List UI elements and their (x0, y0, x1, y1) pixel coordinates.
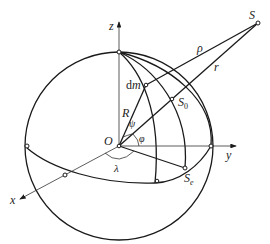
Se-point (183, 166, 187, 170)
S-point (256, 21, 260, 25)
dm-point (144, 83, 148, 87)
Se-label: Se (184, 171, 194, 187)
S0-label: S0 (178, 95, 188, 111)
S-label: S (249, 8, 255, 22)
psi-label: ψ (129, 118, 136, 129)
equator-meridian-point (155, 179, 159, 183)
dm-label: dm (126, 78, 141, 92)
left-equator-point (25, 144, 29, 148)
z-axis-label: z (108, 19, 114, 33)
phi-label: φ (139, 133, 145, 144)
x-equator-point (63, 173, 67, 177)
north-pole-point (117, 50, 121, 54)
y-axis-label: y (225, 148, 232, 162)
r-label: r (214, 60, 219, 74)
sphere-diagram: z y x O S ρ r dm R ψ φ λ S0 Se (0, 0, 270, 244)
lambda-label: λ (113, 162, 119, 174)
lambda-angle-arc (105, 151, 134, 159)
meridian-arc-3 (119, 52, 211, 146)
origin-label: O (104, 134, 113, 148)
line-O-to-Se (119, 146, 185, 168)
S0-point (170, 97, 174, 101)
origin-point (117, 144, 121, 148)
rho-label: ρ (196, 41, 203, 55)
x-axis-label: x (9, 193, 16, 207)
y-sphere-point (209, 144, 213, 148)
